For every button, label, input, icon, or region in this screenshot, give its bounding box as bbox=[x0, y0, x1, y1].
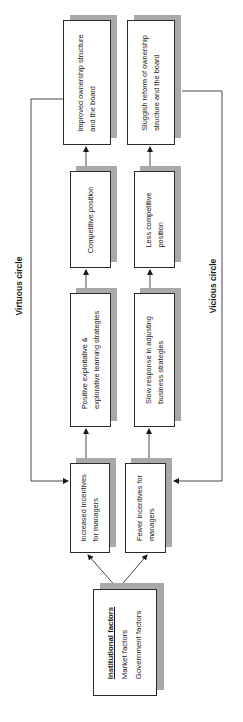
box-text: Fewer incentives for managers bbox=[134, 475, 158, 541]
box-text: Less competitive position bbox=[143, 192, 167, 247]
box-line-2: explorative learning strategies bbox=[91, 311, 103, 409]
box-line-1: Positive exploitative & bbox=[79, 311, 91, 409]
box-line-1: Improved ownership structure bbox=[75, 34, 87, 131]
box-text: Positive exploitative & explorative lear… bbox=[79, 311, 103, 409]
box-positive-learning: Positive exploitative & explorative lear… bbox=[70, 293, 111, 427]
box-text: Sluggish reform of ownership structure a… bbox=[139, 35, 163, 131]
box-sluggish-reform: Sluggish reform of ownership structure a… bbox=[127, 20, 175, 145]
box-text: Slow response in adjusting business stra… bbox=[143, 316, 167, 404]
box-line-1: Less competitive bbox=[143, 192, 155, 247]
box-increased-incentives: Increased incentives for managers bbox=[70, 463, 110, 553]
box-slow-response: Slow response in adjusting business stra… bbox=[134, 293, 175, 427]
vicious-circle-label: Vicious circle bbox=[206, 254, 220, 318]
box-line-1: Fewer incentives for bbox=[134, 475, 146, 541]
institutional-item: Government factors bbox=[132, 606, 146, 678]
box-line-2: and the board bbox=[87, 34, 99, 131]
box-improved-ownership: Improved ownership structure and the boa… bbox=[63, 20, 111, 145]
box-line-2: managers bbox=[146, 475, 158, 541]
box-fewer-incentives: Fewer incentives for managers bbox=[125, 463, 166, 553]
institutional-item: Market factors bbox=[118, 606, 132, 678]
box-less-competitive: Less competitive position bbox=[134, 171, 175, 268]
virtuous-circle-label: Virtuous circle bbox=[12, 252, 26, 320]
box-line-2: business strategies bbox=[155, 316, 167, 404]
institutional-title: Institutional factors bbox=[104, 606, 118, 678]
box-line-2: for managers bbox=[90, 474, 102, 541]
box-line-2: position bbox=[155, 192, 167, 247]
box-institutional-factors: Institutional factors Market factors Gov… bbox=[93, 589, 157, 696]
box-line-1: Increased incentives bbox=[78, 474, 90, 541]
box-line-1: Sluggish reform of ownership bbox=[139, 35, 151, 131]
box-line-1: Slow response in adjusting bbox=[143, 316, 155, 404]
box-line-2: structure and the board bbox=[151, 35, 163, 131]
box-line-1: Competitive position bbox=[85, 186, 97, 253]
box-text: Increased incentives for managers bbox=[78, 474, 102, 541]
box-text: Improved ownership structure and the boa… bbox=[75, 34, 99, 131]
box-text: Competitive position bbox=[85, 186, 97, 253]
box-text: Institutional factors Market factors Gov… bbox=[104, 606, 146, 678]
box-competitive-position: Competitive position bbox=[70, 171, 111, 268]
vicious-circle-text: Vicious circle bbox=[208, 259, 218, 314]
virtuous-circle-text: Virtuous circle bbox=[14, 257, 24, 316]
